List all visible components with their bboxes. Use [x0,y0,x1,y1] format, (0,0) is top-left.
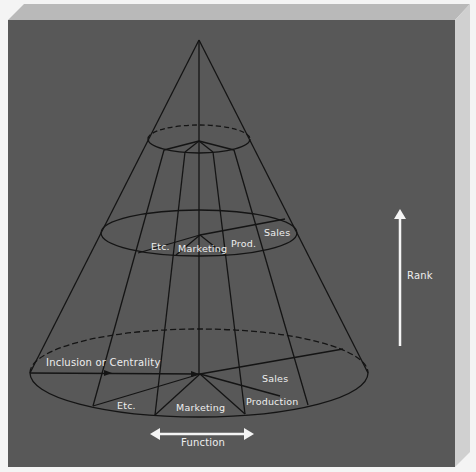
label-inclusion-centrality: Inclusion or Centrality [46,358,161,368]
figure: Etc. Marketing Prod. Sales Inclusion or … [0,0,476,472]
cone-diagram [0,0,476,472]
label-rank: Rank [407,271,433,281]
label-upper-sales: Sales [264,228,290,238]
label-base-etc: Etc. [117,401,136,411]
label-upper-prod: Prod. [231,239,256,249]
label-upper-marketing: Marketing [178,244,227,254]
label-base-production: Production [246,397,299,407]
label-function: Function [181,438,225,448]
label-upper-etc: Etc. [151,242,170,252]
label-base-sales: Sales [262,374,288,384]
label-base-marketing: Marketing [176,403,225,413]
